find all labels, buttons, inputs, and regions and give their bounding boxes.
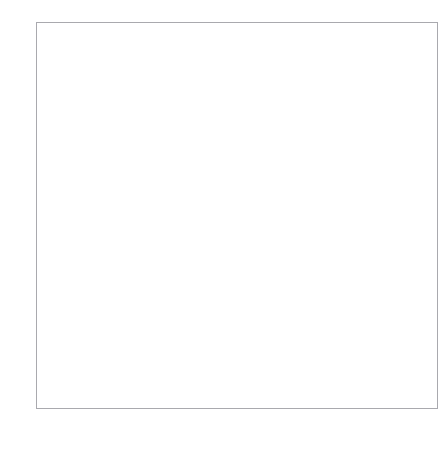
- x-axis-tick-labels: [36, 409, 438, 425]
- scatter-plot-frame: [36, 22, 438, 409]
- page-running-head: [250, 0, 446, 9]
- likelihood-size-legend: [122, 429, 192, 447]
- plot-area: [37, 23, 437, 408]
- impact-size-legend: [8, 308, 30, 360]
